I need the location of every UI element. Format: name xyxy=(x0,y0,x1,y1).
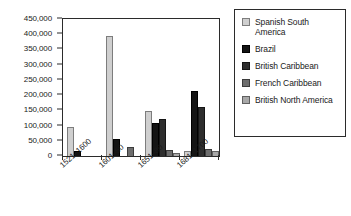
legend-label: Brazil xyxy=(255,44,276,54)
legend-label: Spanish South America xyxy=(255,17,340,37)
y-axis-tick-label: 150,000 xyxy=(24,105,52,114)
bar-group xyxy=(106,19,141,156)
bar-chart-figure: 050,000100,000150,000200,000250,000300,0… xyxy=(0,0,351,216)
y-axis-tick-label: 50,000 xyxy=(28,135,52,144)
legend-label: British Caribbean xyxy=(255,61,319,71)
y-axis-tick-label: 450,000 xyxy=(24,14,52,23)
chart-legend: Spanish South AmericaBrazilBritish Carib… xyxy=(234,9,346,137)
bar-group xyxy=(145,19,180,156)
legend-swatch-icon xyxy=(242,79,250,87)
legend-label: French Caribbean xyxy=(255,78,321,88)
bar-group xyxy=(67,19,102,156)
y-axis-tick-label: 100,000 xyxy=(24,120,52,129)
legend-swatch-icon xyxy=(242,62,250,70)
bar xyxy=(166,150,173,156)
plot-area xyxy=(62,18,220,157)
legend-item: Spanish South America xyxy=(242,17,340,37)
legend-item: Brazil xyxy=(242,44,340,54)
x-axis-tick xyxy=(218,155,219,160)
y-axis-labels: 050,000100,000150,000200,000250,000300,0… xyxy=(0,18,58,155)
legend-swatch-icon xyxy=(242,96,250,104)
y-axis-tick-label: 300,000 xyxy=(24,59,52,68)
bar-group xyxy=(184,19,219,156)
legend-label: British North America xyxy=(255,95,333,105)
legend-item: French Caribbean xyxy=(242,78,340,88)
legend-swatch-icon xyxy=(242,18,250,26)
y-axis-tick-label: 350,000 xyxy=(24,44,52,53)
legend-item: British Caribbean xyxy=(242,61,340,71)
y-axis-tick-label: 0 xyxy=(48,151,52,160)
bar xyxy=(106,36,113,156)
bar xyxy=(127,147,134,156)
y-axis-tick-label: 400,000 xyxy=(24,29,52,38)
bar xyxy=(205,149,212,156)
legend-swatch-icon xyxy=(242,45,250,53)
y-axis-tick-label: 250,000 xyxy=(24,74,52,83)
legend-item: British North America xyxy=(242,95,340,105)
y-axis-tick-label: 200,000 xyxy=(24,90,52,99)
